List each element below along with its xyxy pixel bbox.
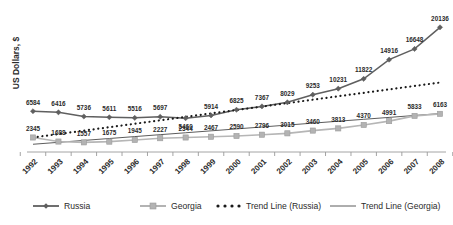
data-label-russia: 6584	[26, 99, 41, 106]
data-point-russia	[259, 104, 264, 109]
x-axis-tick-labels: 1992199319941995199619971998199920002001…	[20, 157, 446, 176]
data-label-georgia: 2796	[255, 122, 270, 129]
data-point-russia	[234, 107, 239, 112]
x-axis-tick-label: 2000	[224, 157, 243, 176]
legend-swatch-trend-russia	[237, 204, 240, 207]
legend-swatch-trend-russia	[230, 204, 233, 207]
data-label-russia: 5697	[153, 104, 168, 111]
x-axis-tick-label: 2003	[300, 157, 319, 176]
legend-swatch-trend-russia	[216, 204, 219, 207]
x-axis-tick-label: 1996	[122, 157, 141, 176]
data-label-russia: 5611	[102, 105, 116, 112]
data-label-russia: 5460	[179, 123, 194, 130]
data-label-georgia: 5833	[407, 103, 422, 110]
data-label-russia: 6825	[229, 97, 244, 104]
data-point-georgia	[361, 122, 366, 127]
data-point-georgia	[208, 134, 213, 139]
data-point-russia	[107, 115, 112, 120]
data-point-georgia	[259, 132, 264, 137]
data-label-georgia: 3460	[306, 118, 321, 125]
data-label-georgia: 1945	[128, 127, 143, 134]
data-point-georgia	[81, 140, 86, 145]
data-label-russia: 20136	[431, 15, 449, 22]
legend-label-trend-russia: Trend Line (Russia)	[246, 201, 321, 211]
data-label-russia: 6416	[51, 100, 66, 107]
data-point-russia	[30, 109, 35, 114]
data-point-georgia	[158, 136, 163, 141]
data-label-russia: 5914	[204, 103, 219, 110]
data-point-georgia	[56, 139, 61, 144]
x-axis-tick-label: 2006	[377, 157, 396, 176]
data-label-georgia: 1675	[102, 129, 117, 136]
x-axis-tick-label: 1992	[20, 157, 39, 176]
data-label-russia: 7367	[255, 94, 270, 101]
series-russia-markers	[30, 25, 442, 121]
data-label-russia: 14916	[380, 47, 398, 54]
data-point-georgia	[183, 135, 188, 140]
x-axis-tick-label: 2008	[427, 157, 446, 176]
data-label-georgia: 4991	[382, 109, 397, 116]
x-axis-tick-label: 1998	[173, 157, 192, 176]
data-label-georgia: 6163	[433, 101, 448, 108]
data-point-georgia	[387, 119, 392, 124]
data-point-russia	[81, 114, 86, 119]
data-point-georgia	[285, 131, 290, 136]
data-point-russia	[310, 92, 315, 97]
data-label-georgia: 2227	[153, 126, 168, 133]
data-label-georgia: 3015	[280, 121, 295, 128]
legend-marker-georgia	[150, 203, 156, 209]
data-point-russia	[285, 100, 290, 105]
data-label-georgia: 1557	[77, 130, 92, 137]
data-label-russia: 8029	[280, 90, 295, 97]
legend-swatch-trend-russia	[223, 204, 226, 207]
data-label-georgia: 4370	[357, 112, 372, 119]
data-label-russia: 11822	[355, 66, 373, 73]
data-point-georgia	[234, 133, 239, 138]
data-point-georgia	[132, 137, 137, 142]
chart-plot-area: 2345168815571675194522272344246725902796…	[0, 0, 453, 225]
data-label-russia: 9253	[306, 82, 321, 89]
legend-label-georgia: Georgia	[171, 201, 202, 211]
data-point-georgia	[310, 128, 315, 133]
chart-legend: RussiaGeorgiaTrend Line (Russia)Trend Li…	[33, 201, 441, 211]
data-point-georgia	[412, 113, 417, 118]
data-point-russia	[132, 115, 137, 120]
x-axis-tick-label: 2005	[351, 157, 370, 176]
x-axis-tick-label: 2004	[326, 157, 345, 176]
data-label-russia: 5736	[77, 104, 92, 111]
x-axis-tick-label: 2007	[402, 157, 421, 176]
data-label-russia: 5516	[128, 105, 143, 112]
x-axis-tick-label: 1994	[71, 157, 90, 176]
data-point-russia	[336, 86, 341, 91]
x-axis-tick-label: 1993	[46, 157, 65, 176]
data-label-georgia: 1688	[51, 129, 66, 136]
data-label-russia: 16648	[406, 36, 424, 43]
data-point-georgia	[336, 126, 341, 131]
x-axis-tick-label: 1995	[97, 157, 116, 176]
x-axis-tick-label: 1999	[199, 157, 218, 176]
data-point-russia	[158, 114, 163, 119]
data-label-russia: 10231	[329, 76, 347, 83]
x-axis-tick-label: 2002	[275, 157, 294, 176]
chart-container: US Dollars, $ 23451688155716751945222723…	[0, 0, 453, 225]
data-point-russia	[56, 110, 61, 115]
x-axis-tick-label: 2001	[249, 157, 268, 176]
data-point-georgia	[30, 135, 35, 140]
legend-label-trend-georgia: Trend Line (Georgia)	[361, 201, 441, 211]
x-axis	[20, 152, 452, 156]
series-russia-path	[33, 27, 440, 118]
data-point-georgia	[437, 111, 442, 116]
x-axis-tick-label: 1997	[148, 157, 167, 176]
data-label-georgia: 2590	[229, 123, 244, 130]
data-label-georgia: 2467	[204, 124, 219, 131]
legend-label-russia: Russia	[64, 201, 90, 211]
legend-marker-russia	[43, 203, 49, 209]
data-label-georgia: 2345	[26, 125, 41, 132]
data-label-georgia: 3813	[331, 116, 346, 123]
data-point-georgia	[107, 139, 112, 144]
